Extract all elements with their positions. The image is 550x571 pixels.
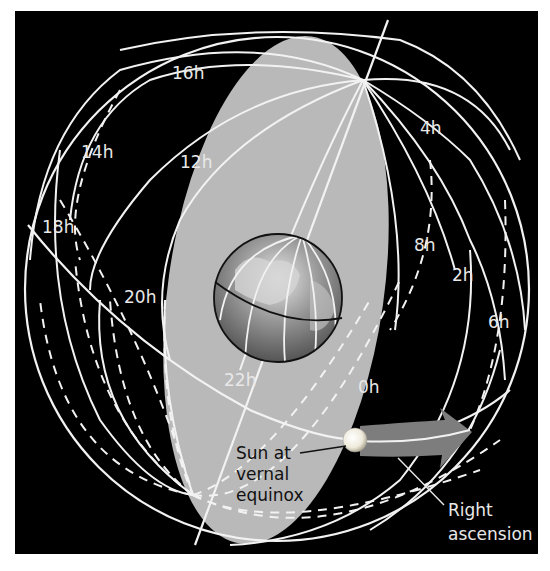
celestial-sphere-diagram: 16h 14h 12h 18h 20h 22h 0h 4h 8h 2h 6h S…	[0, 0, 550, 571]
hour-label-6h: 6h	[488, 312, 510, 332]
svg-text:equinox: equinox	[236, 485, 303, 505]
svg-text:ascension: ascension	[448, 524, 533, 544]
hour-label-18h: 18h	[42, 217, 74, 237]
celestial-sphere-figure: 16h 14h 12h 18h 20h 22h 0h 4h 8h 2h 6h S…	[0, 0, 550, 571]
hour-label-2h: 2h	[452, 265, 474, 285]
hour-label-22h: 22h	[224, 370, 256, 390]
svg-text:vernal: vernal	[236, 464, 289, 484]
svg-text:Sun at: Sun at	[236, 443, 291, 463]
hour-label-14h: 14h	[81, 142, 113, 162]
hour-label-4h: 4h	[420, 118, 442, 138]
svg-text:Right: Right	[448, 500, 493, 520]
earth-globe	[214, 234, 342, 362]
hour-label-8h: 8h	[414, 235, 436, 255]
hour-label-20h: 20h	[124, 287, 156, 307]
sun	[343, 428, 367, 452]
hour-label-16h: 16h	[172, 63, 204, 83]
hour-label-12h: 12h	[180, 152, 212, 172]
hour-label-0h: 0h	[358, 377, 380, 397]
